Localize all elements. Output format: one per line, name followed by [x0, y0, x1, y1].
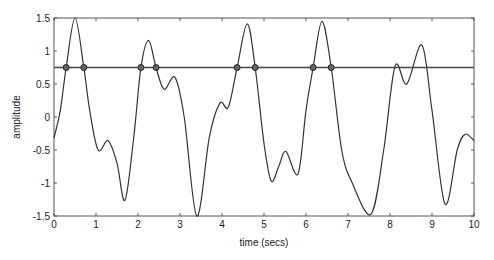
crossing-marker	[63, 65, 69, 71]
x-tick-label: 5	[261, 219, 267, 230]
x-tick-label: 1	[93, 219, 99, 230]
x-tick-label: 8	[387, 219, 393, 230]
x-axis-label: time (secs)	[240, 237, 289, 248]
crossing-marker	[310, 65, 316, 71]
crossing-marker	[328, 65, 334, 71]
crossing-marker	[153, 65, 159, 71]
y-tick-label: -1	[41, 178, 50, 189]
y-tick-label: 0	[44, 112, 50, 123]
crossing-marker	[81, 65, 87, 71]
y-tick-label: 1	[44, 46, 50, 57]
x-tick-label: 7	[345, 219, 351, 230]
x-tick-label: 4	[219, 219, 225, 230]
y-tick-label: -0.5	[33, 145, 51, 156]
y-tick-label: 1.5	[36, 13, 50, 24]
plot-area	[54, 18, 474, 216]
y-axis-label: amplitude	[11, 95, 22, 139]
x-tick-label: 10	[468, 219, 480, 230]
x-tick-label: 6	[303, 219, 309, 230]
x-tick-label: 9	[429, 219, 435, 230]
crossing-marker	[234, 65, 240, 71]
x-tick-label: 0	[51, 219, 57, 230]
chart: 012345678910 -1.5-1-0.500.511.5 time (se…	[0, 0, 494, 260]
y-tick-label: 0.5	[36, 79, 50, 90]
crossing-marker	[138, 65, 144, 71]
y-tick-label: -1.5	[33, 211, 51, 222]
x-tick-label: 3	[177, 219, 183, 230]
crossing-marker	[252, 65, 258, 71]
x-tick-label: 2	[135, 219, 141, 230]
